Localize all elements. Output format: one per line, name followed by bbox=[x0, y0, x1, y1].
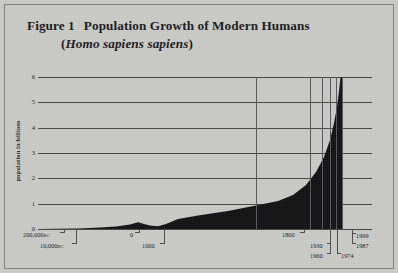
figure-panel: Figure 1Population Growth of Modern Huma… bbox=[0, 0, 398, 273]
y-axis-title: population in billions bbox=[12, 75, 24, 227]
leader-line-1999 bbox=[342, 77, 343, 229]
leader-line-1930 bbox=[310, 77, 311, 229]
leader-line-1800 bbox=[256, 77, 257, 229]
figure-number: Figure 1 bbox=[27, 18, 75, 33]
leader-line-1974 bbox=[330, 77, 331, 229]
y-tick-label-2: 2 bbox=[32, 175, 35, 182]
y-tick-label-4: 4 bbox=[32, 124, 35, 131]
y-tick-label-1: 1 bbox=[32, 200, 35, 207]
y-tick-label-0: 0 bbox=[32, 226, 35, 233]
figure-title: Figure 1Population Growth of Modern Huma… bbox=[27, 17, 310, 53]
y-tick-label-5: 5 bbox=[32, 99, 35, 106]
title-line-2: (Homo sapiens sapiens) bbox=[61, 35, 310, 53]
title-line-1: Figure 1Population Growth of Modern Huma… bbox=[27, 17, 310, 35]
chart-plot-area: population in billions 6 5 4 3 2 1 0 bbox=[38, 77, 372, 229]
y-tick-label-3: 3 bbox=[32, 150, 35, 157]
page-title: Population Growth of Modern Humans bbox=[84, 18, 310, 33]
leader-line-1960 bbox=[322, 77, 323, 229]
species-name: Homo sapiens sapiens bbox=[66, 36, 189, 51]
y-tick-label-6: 6 bbox=[32, 74, 35, 81]
leader-line-1987 bbox=[336, 77, 337, 229]
gridline-0-baseline bbox=[38, 229, 372, 230]
